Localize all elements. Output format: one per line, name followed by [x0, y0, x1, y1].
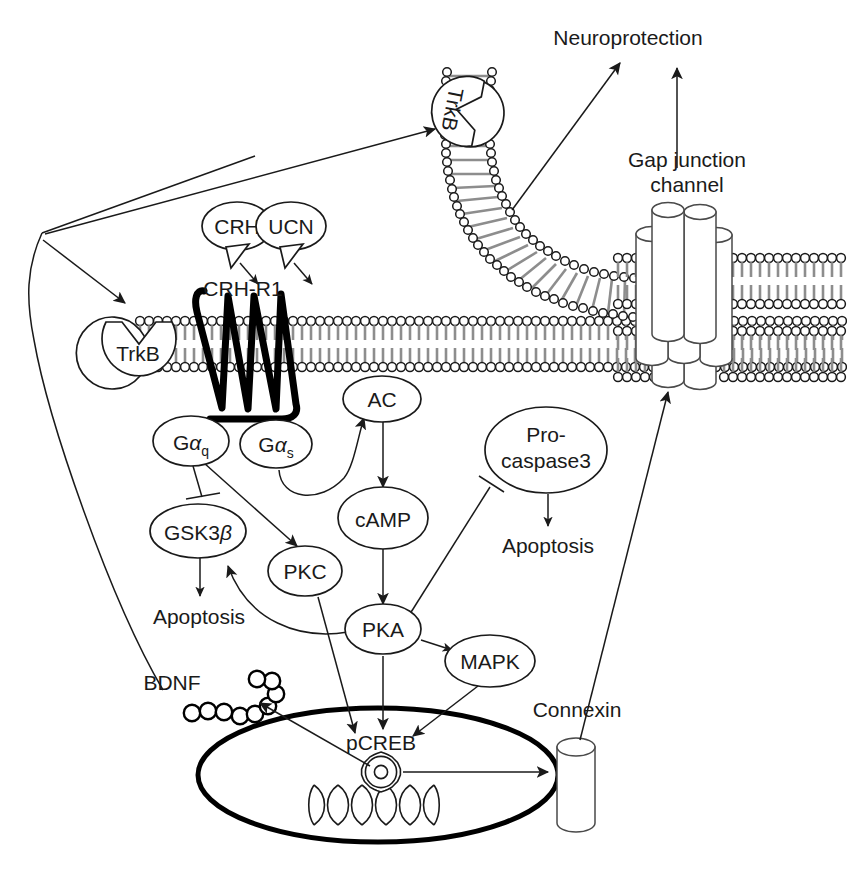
crh-r1-label: CRH-R1 [203, 277, 282, 300]
gas-label: G [258, 433, 274, 456]
gap-junction-label-line2: channel [650, 173, 724, 196]
node-gsk3b[interactable]: GSK3β [150, 504, 246, 558]
node-gas[interactable]: Gαs [240, 420, 312, 468]
connexon-bundle[interactable] [636, 203, 732, 390]
procaspase3-line1: Pro- [526, 423, 566, 446]
apoptosis-left-label: Apoptosis [153, 605, 245, 628]
ucn-label: UCN [268, 215, 314, 238]
crh-label: CRH [214, 215, 260, 238]
connexin-label: Connexin [533, 698, 622, 721]
node-gaq[interactable]: Gαq [153, 416, 229, 466]
apoptosis-right-label: Apoptosis [502, 534, 594, 557]
gaq-label: G [173, 431, 189, 454]
neuroprotection-label: Neuroprotection [553, 26, 702, 49]
bdnf-label: BDNF [143, 671, 200, 694]
mapk-label: MAPK [460, 650, 520, 673]
camp-label: cAMP [355, 508, 411, 531]
gsk3b-greek: β [219, 521, 232, 544]
node-camp[interactable]: cAMP [338, 487, 428, 549]
node-pkc[interactable]: PKC [268, 546, 342, 596]
gap-junction-label-line1: Gap junction [628, 148, 746, 171]
connexin-monomer[interactable] [557, 738, 595, 832]
pkc-label: PKC [283, 560, 326, 583]
pka-label: PKA [362, 618, 404, 641]
pathway-diagram: TrkB [0, 0, 847, 869]
gaq-sub: q [201, 443, 209, 459]
gsk3b-label: GSK3 [164, 521, 220, 544]
ac-label: AC [367, 388, 396, 411]
node-mapk[interactable]: MAPK [445, 635, 535, 687]
svg-text:GSK3β: GSK3β [164, 521, 232, 544]
procaspase3-line2: caspase3 [501, 449, 591, 472]
trkb-lower-label: TrkB [116, 342, 160, 365]
pcreb-label: pCREB [346, 731, 416, 754]
node-procaspase3[interactable]: Pro- caspase3 [485, 407, 607, 493]
node-ac[interactable]: AC [343, 376, 421, 422]
node-pka[interactable]: PKA [345, 604, 421, 654]
gas-sub: s [287, 445, 294, 461]
